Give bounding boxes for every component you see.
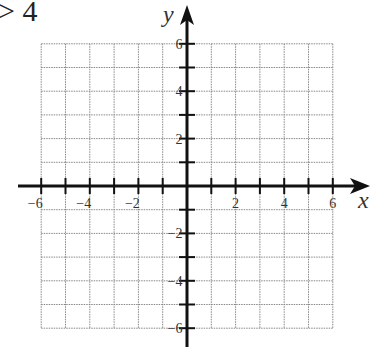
y-tick-label: 4 <box>176 84 183 99</box>
x-tick-label: 4 <box>281 196 288 211</box>
y-tick-label: −4 <box>168 274 183 289</box>
x-tick-label: 2 <box>232 196 239 211</box>
y-tick-label: −6 <box>168 321 183 336</box>
y-tick-label: −2 <box>168 226 183 241</box>
coordinate-plane: −6−4−2246642−2−4−6xy <box>0 0 372 349</box>
y-tick-label: 2 <box>176 132 183 147</box>
x-axis-label: x <box>357 187 369 213</box>
x-tick-label: −4 <box>76 196 91 211</box>
y-axis-label: y <box>161 1 174 27</box>
x-tick-label: 6 <box>329 196 336 211</box>
y-tick-label: 6 <box>176 37 183 52</box>
x-tick-label: −2 <box>125 196 140 211</box>
x-tick-label: −6 <box>28 196 43 211</box>
